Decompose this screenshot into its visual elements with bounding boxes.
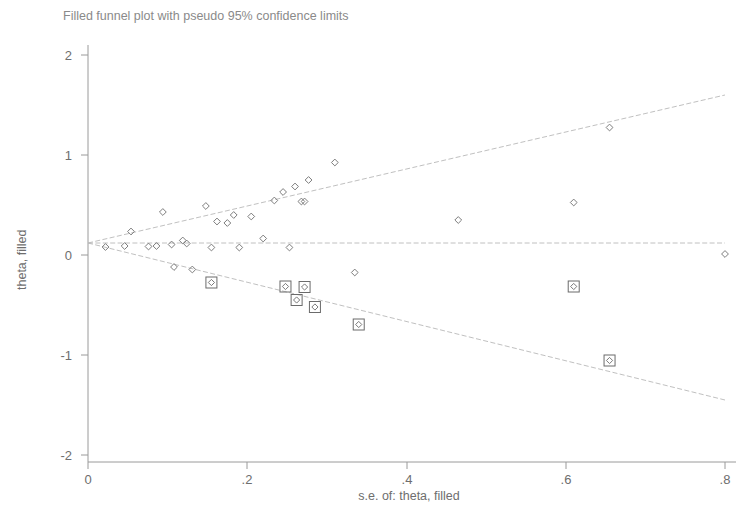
data-point-imputed-box [309,302,320,313]
x-tick-label: 0 [84,472,91,487]
data-point-observed [286,244,293,251]
y-tick-label: 1 [65,148,72,163]
data-point-observed [722,251,729,258]
y-axis-label: theta, filled [15,229,29,290]
data-point-observed [121,243,128,250]
data-point-observed [230,212,237,219]
data-point-observed [305,177,312,184]
data-point-imputed [282,283,288,289]
data-point-imputed-box [206,277,217,288]
data-point-imputed-box [568,281,579,292]
plot-canvas: Filled funnel plot with pseudo 95% confi… [0,0,743,517]
x-axis-ticks [88,462,725,469]
x-tick-label: .6 [561,472,572,487]
x-tick-label: .8 [720,472,731,487]
y-tick-label: -1 [60,348,72,363]
data-point-imputed [301,284,307,290]
data-point-observed [208,244,215,251]
data-point-observed [331,159,338,166]
data-point-observed [153,243,160,250]
lower-confidence-limit [88,243,725,400]
y-tick-label: 0 [65,248,72,263]
x-axis-tick-labels: 0 .2 .4 .6 .8 [84,472,730,487]
data-point-imputed [606,357,612,363]
x-tick-label: .2 [242,472,253,487]
y-tick-label: -2 [60,448,72,463]
y-tick-label: 2 [65,48,72,63]
data-point-observed [351,269,358,276]
data-point-observed [260,235,267,242]
data-point-imputed [312,304,318,310]
data-point-imputed [571,283,577,289]
data-point-imputed-box [299,282,310,293]
data-point-imputed-box [280,281,291,292]
data-point-observed [224,220,231,227]
data-point-observed [145,243,152,250]
data-point-imputed-box [353,319,364,330]
data-point-imputed [294,297,300,303]
upper-confidence-limit [88,95,725,243]
x-axis-label: s.e. of: theta, filled [358,489,459,503]
data-point-observed [606,124,613,131]
observed-study-markers [102,124,728,276]
data-point-imputed [208,279,214,285]
data-point-observed [292,183,299,190]
data-point-observed [159,209,166,216]
data-point-observed [202,203,209,210]
data-point-observed [236,244,243,251]
y-axis-ticks [81,55,88,455]
chart-title: Filled funnel plot with pseudo 95% confi… [63,9,349,23]
data-point-observed [570,199,577,206]
data-point-imputed [356,321,362,327]
data-point-observed [214,218,221,225]
data-point-observed [248,213,255,220]
data-point-observed [168,241,175,248]
y-axis-tick-labels: 2 1 0 -1 -2 [60,48,72,463]
x-tick-label: .4 [402,472,413,487]
data-point-observed [183,240,190,247]
data-point-imputed-box [291,295,302,306]
imputed-study-markers [206,277,615,366]
funnel-plot-figure: Filled funnel plot with pseudo 95% confi… [0,0,743,517]
data-point-imputed-box [604,355,615,366]
data-point-observed [280,189,287,196]
funnel-confidence-limits [88,95,725,400]
data-point-observed [455,217,462,224]
data-point-observed [189,266,196,273]
